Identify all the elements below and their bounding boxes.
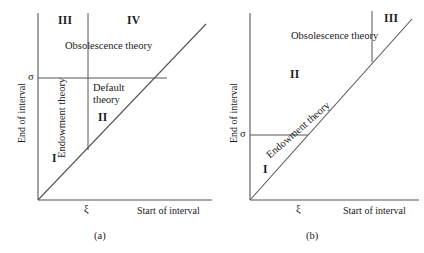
y-axis-label: End of interval [16, 83, 27, 143]
default-theory-label-line2: theory [93, 94, 120, 106]
diagonal-line [250, 19, 412, 200]
region-label-I: I [263, 163, 268, 176]
default-theory-label-line1: Default [93, 82, 125, 94]
region-label-III: III [58, 14, 72, 27]
obsolescence-theory-label: Obsolescence theory [65, 40, 152, 52]
region-label-II: II [98, 111, 108, 124]
figure-two-panel-interval-theories: III IV II I Obsolescence theory Endowmen… [0, 0, 424, 253]
panel-b: III II I Obsolescence theory Endowment t… [212, 0, 424, 253]
x-axis-label: Start of interval [343, 205, 406, 216]
panel-a: III IV II I Obsolescence theory Endowmen… [0, 0, 212, 253]
region-label-III: III [384, 12, 398, 25]
y-axis-label: End of interval [228, 83, 239, 143]
panel-b-caption: (b) [306, 230, 318, 242]
region-label-II: II [290, 68, 300, 81]
obsolescence-theory-label: Obsolescence theory [291, 30, 378, 42]
x-axis-label: Start of interval [137, 205, 200, 216]
x-tick-xi: ξ [84, 203, 89, 215]
y-tick-sigma: σ [28, 71, 34, 83]
y-tick-sigma: σ [240, 128, 246, 140]
panel-a-caption: (a) [94, 230, 106, 242]
region-label-IV: IV [127, 14, 140, 27]
endowment-theory-label: Endowment theory [56, 78, 68, 158]
x-tick-xi: ξ [296, 203, 301, 215]
